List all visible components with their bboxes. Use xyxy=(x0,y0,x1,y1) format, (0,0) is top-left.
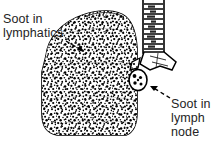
label-soot-in-lymphatics: Soot in lymphatics xyxy=(3,12,63,40)
leader-line-lymph-node xyxy=(150,86,170,98)
soot-lung-diagram: Soot in lymphatics Soot in lymph node xyxy=(0,0,213,148)
label-soot-in-lymph-node: Soot in lymph node xyxy=(171,97,211,139)
trachea xyxy=(143,0,164,53)
lymph-node xyxy=(129,70,147,91)
